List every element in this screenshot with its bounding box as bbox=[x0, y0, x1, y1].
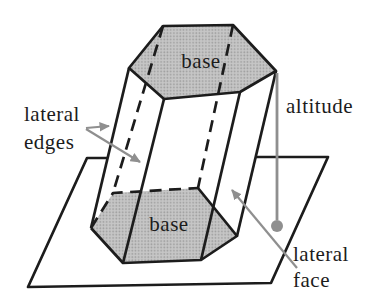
prism-diagram: base base lateral edges altitude lateral… bbox=[0, 0, 376, 303]
label-altitude: altitude bbox=[286, 94, 353, 118]
label-lateral-face: lateral face bbox=[293, 242, 349, 292]
label-base-top: base bbox=[181, 49, 220, 73]
lateral-edges-arrow-upper bbox=[86, 126, 109, 128]
label-base-bottom: base bbox=[149, 212, 188, 236]
label-lateral-edges-line2: edges bbox=[24, 130, 74, 154]
label-lateral-face-line1: lateral bbox=[293, 242, 349, 266]
altitude-foot-dot bbox=[271, 220, 283, 232]
label-lateral-edges: lateral edges bbox=[24, 102, 80, 154]
label-lateral-face-line2: face bbox=[293, 268, 330, 292]
prism-diagram-canvas: base base lateral edges altitude lateral… bbox=[0, 0, 376, 303]
label-lateral-edges-line1: lateral bbox=[24, 102, 80, 126]
